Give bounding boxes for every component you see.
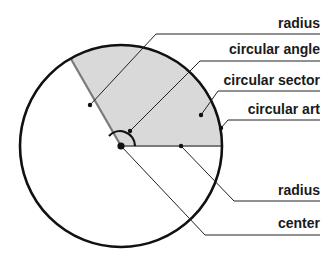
dot-circular-arc [219, 126, 223, 130]
circle-diagram: radius circular angle circular sector ci… [0, 0, 335, 260]
label-circular-angle: circular angle [229, 41, 320, 57]
label-radius-top: radius [278, 15, 320, 31]
label-center: center [278, 215, 321, 231]
dot-radius-top [88, 103, 92, 107]
label-circular-arc: circular art [248, 101, 321, 117]
label-radius-bottom: radius [278, 182, 320, 198]
dot-radius-bottom [179, 144, 183, 148]
center-point [117, 142, 124, 149]
dot-circular-sector [199, 113, 203, 117]
leader-circular-arc [221, 120, 320, 128]
dot-circular-angle [128, 129, 132, 133]
circular-sector-shape [71, 46, 222, 146]
label-circular-sector: circular sector [224, 72, 321, 88]
